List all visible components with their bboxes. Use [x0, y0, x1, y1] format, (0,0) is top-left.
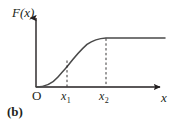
x1-tick-label: x1	[61, 90, 70, 102]
distribution-curve	[36, 38, 165, 87]
figure-container: F(x) x O x1 x2 (b)	[0, 0, 172, 124]
x1-tick-label-subscript: 1	[67, 96, 71, 105]
origin-label: O	[32, 89, 41, 102]
x2-tick-label-subscript: 2	[105, 96, 109, 105]
x-axis-label: x	[161, 91, 167, 104]
x2-tick-label: x2	[99, 90, 108, 102]
y-axis-label: F(x)	[12, 6, 34, 19]
x2-tick-label-main: x	[99, 89, 104, 103]
figure-caption: (b)	[7, 105, 23, 118]
x1-tick-label-main: x	[61, 89, 66, 103]
